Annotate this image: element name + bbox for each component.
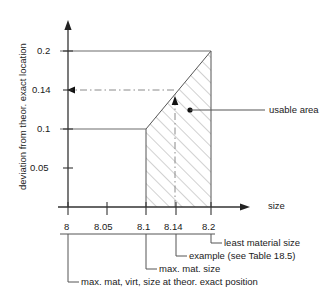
callout-max-mat-size: max. mat. size xyxy=(159,264,220,274)
y-tick-label-0.2: 0.2 xyxy=(37,46,50,56)
x-tick-label-8: 8 xyxy=(64,222,69,232)
x-tick-label-8.14: 8.14 xyxy=(164,222,183,232)
y-tick-label-0.05: 0.05 xyxy=(30,163,49,173)
callout-least-material-size: least material size xyxy=(224,238,300,248)
x-tick-label-8.1: 8.1 xyxy=(137,222,150,232)
usable-area-label: usable area xyxy=(269,105,319,115)
y-tick-label-0.14: 0.14 xyxy=(32,85,51,95)
y-axis xyxy=(63,20,73,207)
y-tick-label-0.1: 0.1 xyxy=(37,124,50,134)
x-tick-label-8.05: 8.05 xyxy=(94,222,113,232)
y-axis-label: deviation from theor. exact location xyxy=(18,43,28,190)
technical-diagram: deviation from theor. exact location 0.2… xyxy=(0,0,326,307)
callout-example-table: example (see Table 18.5) xyxy=(189,251,296,261)
x-tick-label-8.2: 8.2 xyxy=(202,222,215,232)
usable-area-region xyxy=(146,51,211,207)
callout-max-mat-virt-size: max. mat, virt, size at theor. exact pos… xyxy=(81,277,258,287)
x-axis-label: size xyxy=(268,201,285,211)
